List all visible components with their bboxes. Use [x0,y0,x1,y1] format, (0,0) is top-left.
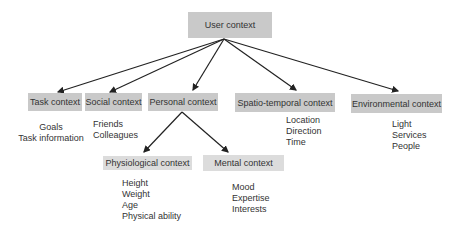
attribute-item: Age [122,200,181,211]
node-label: Spatio-temporal context [237,98,332,108]
physiological-attributes: Height Weight Age Physical ability [122,178,181,222]
attribute-item: Task information [17,133,85,144]
edge-user-environmental [224,39,398,91]
attribute-item: Colleagues [93,130,138,141]
attribute-item: Location [286,115,322,126]
attribute-item: Direction [286,126,322,137]
node-label: Mental context [214,158,273,168]
node-social-context: Social context [85,93,142,111]
task-attributes: Goals Task information [17,122,85,144]
node-user-context: User context [188,12,272,38]
node-environmental-context: Environmental context [351,94,442,113]
attribute-item: Services [392,130,427,141]
node-spatio-temporal-context: Spatio-temporal context [235,93,335,112]
edge-user-task [58,39,224,92]
node-label: User context [205,20,256,30]
node-task-context: Task context [28,93,82,111]
mental-attributes: Mood Expertise Interests [232,182,270,215]
node-label: Environmental context [352,99,441,109]
attribute-item: Time [286,137,322,148]
attribute-item: Light [392,119,427,130]
node-label: Physiological context [105,158,189,168]
social-attributes: Friends Colleagues [93,119,138,141]
attribute-item: People [392,141,427,152]
attribute-item: Mood [232,182,270,193]
attribute-item: Interests [232,204,270,215]
attribute-item: Expertise [232,193,270,204]
edge-user-social [110,39,224,92]
node-label: Social context [85,97,141,107]
attribute-item: Weight [122,189,181,200]
edge-personal-physiological [144,112,182,152]
node-mental-context: Mental context [203,155,284,171]
attribute-item: Goals [17,122,85,133]
attribute-item: Physical ability [122,211,181,222]
edge-user-spatio [224,39,296,90]
attribute-item: Friends [93,119,138,130]
spatio-temporal-attributes: Location Direction Time [286,115,322,148]
environmental-attributes: Light Services People [392,119,427,152]
node-physiological-context: Physiological context [103,156,192,170]
node-personal-context: Personal context [148,93,218,111]
attribute-item: Height [122,178,181,189]
edge-personal-mental [182,112,228,152]
node-label: Task context [30,97,80,107]
node-label: Personal context [149,97,216,107]
